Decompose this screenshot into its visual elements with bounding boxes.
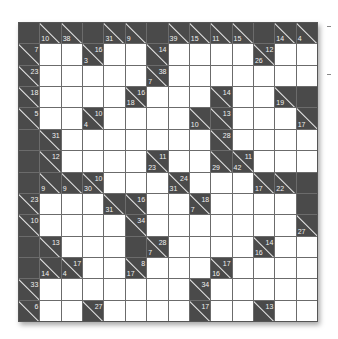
entry-cell[interactable] bbox=[233, 44, 253, 64]
entry-cell[interactable] bbox=[147, 279, 167, 299]
entry-cell[interactable] bbox=[147, 108, 167, 128]
entry-cell[interactable] bbox=[211, 301, 231, 321]
entry-cell[interactable] bbox=[233, 130, 253, 150]
entry-cell[interactable] bbox=[169, 87, 189, 107]
entry-cell[interactable] bbox=[169, 66, 189, 86]
entry-cell[interactable] bbox=[147, 130, 167, 150]
entry-cell[interactable] bbox=[62, 66, 82, 86]
entry-cell[interactable] bbox=[211, 44, 231, 64]
entry-cell[interactable] bbox=[147, 194, 167, 214]
entry-cell[interactable] bbox=[83, 237, 103, 257]
entry-cell[interactable] bbox=[275, 301, 295, 321]
entry-cell[interactable] bbox=[169, 151, 189, 171]
entry-cell[interactable] bbox=[233, 108, 253, 128]
entry-cell[interactable] bbox=[190, 151, 210, 171]
entry-cell[interactable] bbox=[126, 130, 146, 150]
entry-cell[interactable] bbox=[104, 44, 124, 64]
entry-cell[interactable] bbox=[275, 44, 295, 64]
entry-cell[interactable] bbox=[83, 194, 103, 214]
entry-cell[interactable] bbox=[83, 215, 103, 235]
entry-cell[interactable] bbox=[233, 279, 253, 299]
entry-cell[interactable] bbox=[297, 237, 317, 257]
entry-cell[interactable] bbox=[126, 301, 146, 321]
entry-cell[interactable] bbox=[104, 215, 124, 235]
entry-cell[interactable] bbox=[83, 258, 103, 278]
entry-cell[interactable] bbox=[254, 87, 274, 107]
entry-cell[interactable] bbox=[83, 66, 103, 86]
entry-cell[interactable] bbox=[297, 130, 317, 150]
entry-cell[interactable] bbox=[169, 108, 189, 128]
entry-cell[interactable] bbox=[233, 194, 253, 214]
entry-cell[interactable] bbox=[275, 151, 295, 171]
entry-cell[interactable] bbox=[62, 130, 82, 150]
entry-cell[interactable] bbox=[40, 87, 60, 107]
entry-cell[interactable] bbox=[104, 301, 124, 321]
entry-cell[interactable] bbox=[275, 258, 295, 278]
entry-cell[interactable] bbox=[275, 108, 295, 128]
entry-cell[interactable] bbox=[40, 108, 60, 128]
entry-cell[interactable] bbox=[233, 173, 253, 193]
entry-cell[interactable] bbox=[297, 151, 317, 171]
entry-cell[interactable] bbox=[83, 130, 103, 150]
entry-cell[interactable] bbox=[254, 66, 274, 86]
entry-cell[interactable] bbox=[211, 237, 231, 257]
entry-cell[interactable] bbox=[254, 108, 274, 128]
entry-cell[interactable] bbox=[190, 130, 210, 150]
entry-cell[interactable] bbox=[169, 215, 189, 235]
entry-cell[interactable] bbox=[254, 130, 274, 150]
entry-cell[interactable] bbox=[62, 194, 82, 214]
entry-cell[interactable] bbox=[83, 151, 103, 171]
entry-cell[interactable] bbox=[40, 301, 60, 321]
entry-cell[interactable] bbox=[211, 215, 231, 235]
entry-cell[interactable] bbox=[233, 66, 253, 86]
entry-cell[interactable] bbox=[126, 173, 146, 193]
entry-cell[interactable] bbox=[275, 66, 295, 86]
entry-cell[interactable] bbox=[190, 237, 210, 257]
entry-cell[interactable] bbox=[211, 173, 231, 193]
entry-cell[interactable] bbox=[190, 215, 210, 235]
entry-cell[interactable] bbox=[233, 237, 253, 257]
entry-cell[interactable] bbox=[211, 66, 231, 86]
entry-cell[interactable] bbox=[190, 173, 210, 193]
entry-cell[interactable] bbox=[190, 66, 210, 86]
entry-cell[interactable] bbox=[233, 215, 253, 235]
entry-cell[interactable] bbox=[275, 279, 295, 299]
entry-cell[interactable] bbox=[297, 258, 317, 278]
entry-cell[interactable] bbox=[104, 130, 124, 150]
entry-cell[interactable] bbox=[83, 87, 103, 107]
entry-cell[interactable] bbox=[297, 279, 317, 299]
entry-cell[interactable] bbox=[254, 279, 274, 299]
entry-cell[interactable] bbox=[233, 301, 253, 321]
entry-cell[interactable] bbox=[147, 87, 167, 107]
entry-cell[interactable] bbox=[40, 66, 60, 86]
entry-cell[interactable] bbox=[169, 279, 189, 299]
entry-cell[interactable] bbox=[254, 215, 274, 235]
entry-cell[interactable] bbox=[147, 258, 167, 278]
entry-cell[interactable] bbox=[104, 151, 124, 171]
entry-cell[interactable] bbox=[275, 130, 295, 150]
entry-cell[interactable] bbox=[62, 151, 82, 171]
entry-cell[interactable] bbox=[169, 258, 189, 278]
entry-cell[interactable] bbox=[40, 194, 60, 214]
entry-cell[interactable] bbox=[169, 130, 189, 150]
entry-cell[interactable] bbox=[147, 301, 167, 321]
entry-cell[interactable] bbox=[254, 258, 274, 278]
entry-cell[interactable] bbox=[104, 279, 124, 299]
entry-cell[interactable] bbox=[190, 258, 210, 278]
entry-cell[interactable] bbox=[40, 215, 60, 235]
entry-cell[interactable] bbox=[169, 44, 189, 64]
entry-cell[interactable] bbox=[190, 44, 210, 64]
entry-cell[interactable] bbox=[254, 151, 274, 171]
entry-cell[interactable] bbox=[40, 44, 60, 64]
entry-cell[interactable] bbox=[211, 279, 231, 299]
entry-cell[interactable] bbox=[297, 44, 317, 64]
entry-cell[interactable] bbox=[275, 237, 295, 257]
entry-cell[interactable] bbox=[254, 194, 274, 214]
entry-cell[interactable] bbox=[297, 66, 317, 86]
entry-cell[interactable] bbox=[104, 237, 124, 257]
entry-cell[interactable] bbox=[147, 215, 167, 235]
entry-cell[interactable] bbox=[233, 87, 253, 107]
entry-cell[interactable] bbox=[126, 66, 146, 86]
entry-cell[interactable] bbox=[169, 301, 189, 321]
entry-cell[interactable] bbox=[233, 258, 253, 278]
